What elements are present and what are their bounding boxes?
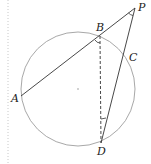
secant-PD [101,8,135,143]
secant-PA [21,8,135,96]
label-C: C [129,51,138,64]
angle-P-mark [129,13,134,16]
angle-D-mark [101,118,106,119]
label-D: D [96,145,106,158]
circle-center [77,88,79,90]
chord-BD [100,36,101,143]
label-P: P [137,1,146,14]
geometry-diagram: P B A C D [0,0,151,164]
angle-B-mark [95,40,100,43]
label-A: A [10,92,19,105]
label-B: B [95,21,104,34]
